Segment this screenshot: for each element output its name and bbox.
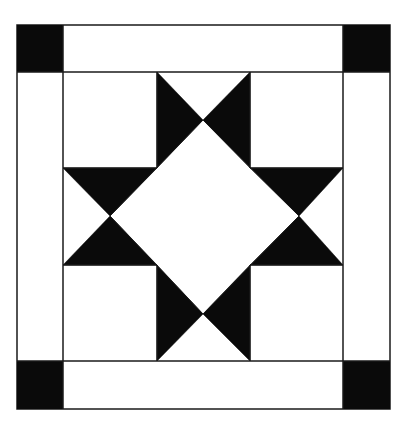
- corner-square-bottom-right: [343, 361, 390, 409]
- corner-square-top-left: [17, 25, 63, 72]
- quilt-block-diagram: [0, 0, 404, 427]
- outer-frame: [17, 25, 390, 409]
- outer-border: [17, 25, 390, 409]
- corner-square-bottom-left: [17, 361, 63, 409]
- corner-square-top-right: [343, 25, 390, 72]
